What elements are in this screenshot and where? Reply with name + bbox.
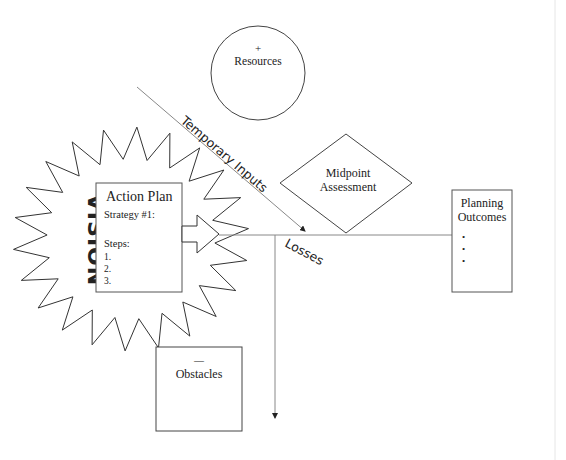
planning-outcomes-box: Planning Outcomes • • • xyxy=(452,190,512,292)
action-plan-steps-label: Steps: xyxy=(104,238,130,249)
resources-circle: + Resources xyxy=(211,26,305,120)
action-plan-step-1: 1. xyxy=(104,252,111,262)
planning-outcomes-bullet-1: • xyxy=(462,232,465,242)
action-plan-strategy: Strategy #1: xyxy=(104,209,155,220)
obstacles-sign: — xyxy=(193,355,205,366)
midpoint-assessment-diamond: Midpoint Assessment xyxy=(280,134,412,233)
action-plan-step-3: 3. xyxy=(104,276,111,286)
losses-label: Losses xyxy=(283,235,327,268)
planning-outcomes-line1: Planning xyxy=(461,196,504,210)
planning-diagram: VISION Action Plan Strategy #1: Steps: 1… xyxy=(0,0,566,460)
resources-label: Resources xyxy=(234,55,282,67)
resources-sign: + xyxy=(255,42,261,54)
action-plan-step-2: 2. xyxy=(104,264,111,274)
midpoint-line1: Midpoint xyxy=(326,166,371,180)
planning-outcomes-line2: Outcomes xyxy=(458,210,507,224)
obstacles-label: Obstacles xyxy=(176,367,223,381)
midpoint-line2: Assessment xyxy=(320,180,377,194)
planning-outcomes-bullet-2: • xyxy=(462,244,465,254)
planning-outcomes-bullet-3: • xyxy=(462,256,465,266)
obstacles-box: — Obstacles xyxy=(156,347,242,431)
action-plan-box: Action Plan Strategy #1: Steps: 1. 2. 3. xyxy=(96,183,182,292)
action-plan-title: Action Plan xyxy=(106,189,173,204)
